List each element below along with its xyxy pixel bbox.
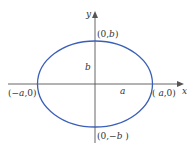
y-axis-label: y: [85, 9, 92, 19]
right-vertex-label: ( a,0): [152, 88, 176, 98]
ellipse-diagram: x y (0,b) (0,−b ) (−a,0) ( a,0) b a: [0, 0, 193, 153]
top-vertex-label: (0,b): [97, 29, 118, 39]
semi-minor-label: b: [85, 62, 91, 72]
semi-major-label: a: [120, 86, 125, 96]
x-axis-label: x: [182, 86, 187, 96]
y-axis-arrow-icon: [92, 11, 98, 18]
bottom-vertex-label: (0,−b ): [97, 131, 129, 141]
left-vertex-label: (−a,0): [8, 88, 37, 98]
